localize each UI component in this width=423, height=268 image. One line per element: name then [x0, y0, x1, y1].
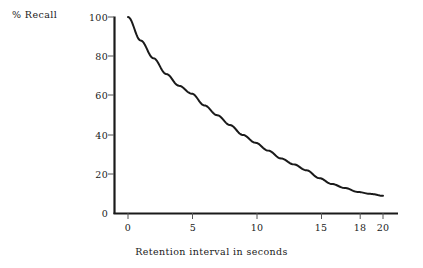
recall-curve — [128, 17, 383, 196]
chart-plot-area — [0, 0, 423, 268]
chart-figure: % Recall 100 80 60 40 20 0 0 5 10 15 18 … — [0, 0, 423, 268]
y-axis-ticks — [108, 17, 114, 174]
x-axis-label: Retention interval in seconds — [0, 246, 423, 257]
